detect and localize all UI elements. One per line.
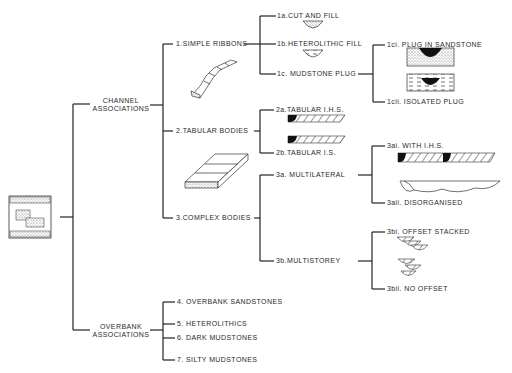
disorganised-icon	[400, 181, 500, 192]
disorganised-label: 3aii. DISORGANISED	[387, 199, 463, 207]
complex-bodies-label: 3.COMPLEX BODIES	[176, 214, 251, 222]
plug-in-sandstone-label: 1ci. PLUG IN SANDSTONE	[387, 41, 482, 49]
multistorey-label: 3b.MULTISTOREY	[276, 257, 340, 265]
heterolithic-fill-icon	[303, 50, 323, 57]
tabular-bodies-label: 2.TABULAR BODIES	[176, 127, 248, 135]
dark-mudstones-label: 6. DARK MUDSTONES	[177, 334, 258, 342]
no-offset-label: 3bii. NO OFFSET	[387, 285, 448, 293]
isolated-plug-label: 1cii. ISOLATED PLUG	[387, 98, 464, 106]
tabular-is-label: 2b.TABULAR I.S.	[276, 149, 336, 157]
classification-tree	[0, 0, 512, 373]
cut-and-fill-label: 1a.CUT AND FILL	[277, 12, 339, 20]
tabular-is-icon	[288, 136, 345, 143]
offset-stacked-label: 3bi. OFFSET STACKED	[387, 228, 470, 236]
with-ihs-label: 3ai. WITH I.H.S.	[387, 142, 444, 150]
heterolithic-fill-label: 1b.HETEROLITHIC FILL	[277, 40, 362, 48]
tabular-ihs-icon	[288, 115, 345, 122]
tabular-body-icon	[185, 154, 248, 188]
simple-ribbon-icon	[191, 60, 237, 98]
no-offset-icon	[398, 259, 421, 276]
overbank-sandstones-label: 4. OVERBANK SANDSTONES	[177, 298, 283, 306]
channel-belt-icon	[9, 196, 51, 238]
multilateral-label: 3a. MULTILATERAL	[276, 171, 345, 179]
tabular-ihs-label: 2a.TABULAR I.H.S.	[276, 106, 344, 114]
mudstone-plug-label: 1c. MUDSTONE PLUG	[277, 70, 356, 78]
multilateral-ihs-icon	[398, 153, 495, 162]
cut-and-fill-icon	[303, 21, 323, 28]
channel-associations-label: CHANNEL ASSOCIATIONS	[92, 97, 150, 113]
silty-mudstones-label: 7. SILTY MUDSTONES	[177, 356, 257, 364]
simple-ribbons-label: 1.SIMPLE RIBBONS	[176, 40, 247, 48]
offset-stacked-icon	[397, 237, 428, 250]
plug-in-sandstone-icon	[407, 48, 454, 66]
overbank-associations-label: OVERBANK ASSOCIATIONS	[92, 323, 150, 339]
isolated-plug-icon	[407, 74, 454, 91]
heterolithics-label: 5. HETEROLITHICS	[177, 320, 247, 328]
